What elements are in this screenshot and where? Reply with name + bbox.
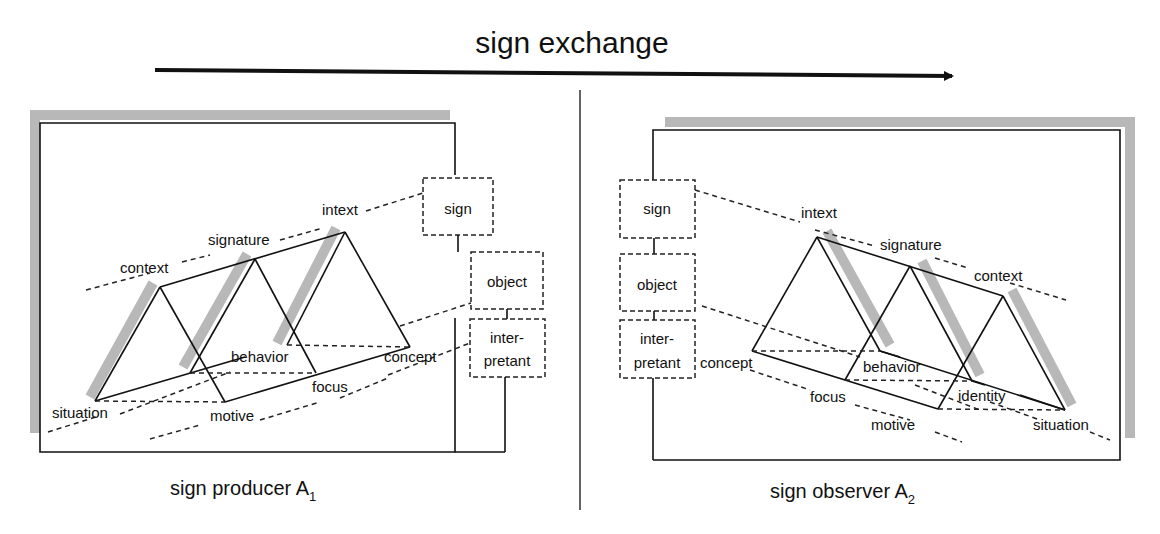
observer-object-label: object bbox=[637, 276, 678, 293]
producer-label-concept: concept bbox=[384, 348, 437, 365]
observer-label-context: context bbox=[974, 267, 1023, 284]
producer-label-context: context bbox=[120, 259, 169, 276]
producer-interpretant-label-1: inter- bbox=[490, 329, 524, 346]
observer-sign-label: sign bbox=[643, 200, 671, 217]
producer-sign-label: sign bbox=[444, 200, 472, 217]
observer-panel: sign object inter- pretant bbox=[620, 122, 1130, 507]
observer-interpretant-label-1: inter- bbox=[640, 330, 674, 347]
producer-label-focus: focus bbox=[312, 378, 348, 395]
observer-label-motive: motive bbox=[871, 416, 915, 433]
producer-frame bbox=[40, 123, 455, 452]
producer-interpretant-label-2: pretant bbox=[484, 352, 532, 369]
producer-object-label: object bbox=[487, 273, 528, 290]
observer-caption: sign observer A2 bbox=[770, 480, 915, 507]
producer-label-intext: intext bbox=[322, 201, 359, 218]
producer-shade-1 bbox=[90, 283, 153, 397]
observer-shade-3 bbox=[1012, 290, 1072, 405]
observer-label-focus: focus bbox=[810, 388, 846, 405]
producer-prism bbox=[95, 232, 410, 402]
producer-dashed-links bbox=[48, 193, 471, 439]
observer-interpretant-label-2: pretant bbox=[634, 354, 682, 371]
producer-panel: sign object inter- pretant bbox=[35, 115, 545, 504]
observer-label-concept: concept bbox=[700, 354, 753, 371]
observer-prism bbox=[752, 237, 1065, 410]
observer-label-intext: intext bbox=[801, 204, 838, 221]
producer-caption: sign producer A1 bbox=[170, 477, 316, 504]
observer-label-behavior: behavior bbox=[863, 358, 921, 375]
producer-label-signature: signature bbox=[208, 231, 270, 248]
producer-label-motive: motive bbox=[210, 407, 254, 424]
exchange-arrow bbox=[155, 70, 952, 76]
observer-label-situation: situation bbox=[1033, 416, 1089, 433]
producer-label-behavior: behavior bbox=[231, 348, 289, 365]
diagram-title: sign exchange bbox=[475, 26, 668, 59]
producer-label-situation: situation bbox=[52, 404, 108, 421]
observer-label-identity: identity bbox=[958, 387, 1006, 404]
observer-shade-2 bbox=[922, 261, 980, 375]
producer-shade-3 bbox=[277, 228, 336, 343]
sign-exchange-diagram: sign exchange sign object inter- pretant bbox=[0, 0, 1160, 534]
observer-label-signature: signature bbox=[880, 236, 942, 253]
